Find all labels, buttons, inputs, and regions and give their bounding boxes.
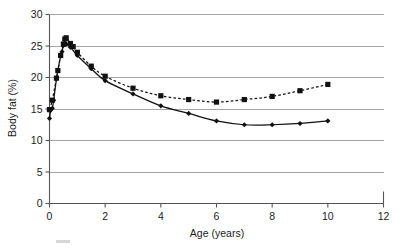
data-point-square — [297, 88, 302, 93]
data-point-square — [103, 74, 108, 79]
y-tick-label: 25 — [31, 40, 43, 52]
data-point-diamond — [130, 91, 135, 96]
caption-artifact — [56, 240, 70, 243]
y-tick-label: 10 — [31, 134, 43, 146]
data-point-diamond — [270, 122, 275, 127]
data-point-square — [58, 53, 63, 58]
data-point-square — [71, 44, 76, 49]
series-layer — [47, 35, 331, 127]
data-point-square — [270, 94, 275, 99]
x-tick-label: 6 — [214, 210, 220, 222]
y-axis-title: Body fat (%) — [6, 79, 18, 137]
series-1 — [47, 41, 331, 127]
grid-lines — [50, 15, 384, 204]
tick-marks — [46, 15, 384, 208]
x-axis-title: Age (years) — [190, 227, 244, 239]
caption-smudge-mark — [56, 240, 70, 243]
series-2 — [47, 35, 331, 112]
data-point-square — [55, 68, 60, 73]
y-tick-label: 0 — [37, 197, 43, 209]
data-point-diamond — [297, 121, 302, 126]
data-point-square — [325, 82, 330, 87]
data-point-square — [64, 35, 69, 40]
x-tick-label: 8 — [269, 210, 275, 222]
data-point-square — [50, 98, 55, 103]
data-point-square — [242, 97, 247, 102]
y-tick-label: 20 — [31, 71, 43, 83]
y-tick-label: 30 — [31, 8, 43, 20]
x-tick-label: 10 — [322, 210, 334, 222]
data-point-diamond — [47, 116, 52, 121]
data-point-square — [54, 76, 59, 81]
data-point-diamond — [214, 118, 219, 123]
x-tick-label: 4 — [158, 210, 164, 222]
data-point-square — [158, 93, 163, 98]
chart-figure: 051015202530024681012 Age (years) Body f… — [0, 0, 405, 248]
data-point-square — [89, 64, 94, 69]
data-point-diamond — [186, 111, 191, 116]
data-point-square — [214, 99, 219, 104]
y-tick-label: 5 — [37, 166, 43, 178]
data-point-square — [47, 107, 52, 112]
tick-labels: 051015202530024681012 — [31, 8, 390, 221]
data-point-diamond — [158, 103, 163, 108]
data-point-square — [61, 42, 66, 47]
data-point-square — [75, 50, 80, 55]
x-tick-label: 0 — [47, 210, 53, 222]
data-point-square — [130, 86, 135, 91]
data-point-diamond — [325, 118, 330, 123]
data-point-diamond — [242, 122, 247, 127]
body-fat-line-chart: 051015202530024681012 Age (years) Body f… — [0, 0, 405, 248]
data-point-square — [186, 97, 191, 102]
x-tick-label: 2 — [102, 210, 108, 222]
x-tick-label: 12 — [378, 210, 390, 222]
y-tick-label: 15 — [31, 103, 43, 115]
